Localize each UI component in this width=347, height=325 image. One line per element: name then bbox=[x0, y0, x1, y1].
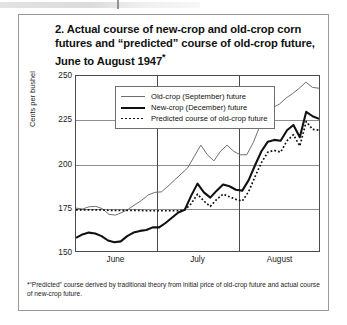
chart-plot-area: Old-crop (September) future New-crop (De… bbox=[75, 75, 320, 252]
y-axis-title: Cents per bushel bbox=[28, 71, 37, 127]
series-line-new-crop bbox=[76, 112, 319, 242]
x-axis-tick-june: June bbox=[107, 255, 125, 264]
legend-swatch-thick-line-icon bbox=[121, 104, 145, 112]
y-axis-tick-250: 250 bbox=[46, 71, 72, 80]
figure-footnote: *“Predicted” course derived by tradition… bbox=[27, 280, 321, 299]
page-header-caret bbox=[117, 0, 119, 9]
legend-item-old-crop: Old-crop (September) future bbox=[121, 91, 268, 102]
figure-title-line-3: June to August 1947* bbox=[55, 50, 317, 68]
figure-panel: 2. Actual course of new-crop and old-cro… bbox=[18, 14, 329, 311]
chart-plot-wrapper: Cents per bushel 150175200225250 JuneJul… bbox=[46, 75, 320, 265]
x-axis-tick-july: July bbox=[190, 255, 205, 264]
page-header-strip bbox=[0, 2, 200, 8]
legend-swatch-thin-line-icon bbox=[121, 93, 145, 101]
legend-swatch-dotted-line-icon bbox=[121, 115, 145, 123]
y-axis-tick-200: 200 bbox=[46, 159, 72, 168]
series-line-predicted bbox=[76, 122, 319, 211]
y-axis-tick-225: 225 bbox=[46, 115, 72, 124]
figure-title-line-1: 2. Actual course of new-crop and old-cro… bbox=[55, 22, 317, 36]
chart-legend: Old-crop (September) future New-crop (De… bbox=[115, 86, 275, 129]
figure-title-line-3-text: June to August 1947 bbox=[55, 55, 162, 67]
figure-title-footnote-marker: * bbox=[162, 52, 165, 62]
legend-label-old-crop: Old-crop (September) future bbox=[151, 92, 246, 101]
legend-label-new-crop: New-crop (December) future bbox=[151, 103, 247, 112]
figure-title-line-2: futures and “predicted” course of old-cr… bbox=[55, 36, 317, 50]
x-axis-tick-august: August bbox=[267, 255, 293, 264]
legend-item-predicted: Predicted course of old-crop future bbox=[121, 113, 268, 124]
legend-item-new-crop: New-crop (December) future bbox=[121, 102, 268, 113]
figure-title: 2. Actual course of new-crop and old-cro… bbox=[55, 22, 317, 68]
y-axis-tick-150: 150 bbox=[46, 248, 72, 257]
legend-label-predicted: Predicted course of old-crop future bbox=[151, 114, 268, 123]
y-axis-tick-175: 175 bbox=[46, 203, 72, 212]
